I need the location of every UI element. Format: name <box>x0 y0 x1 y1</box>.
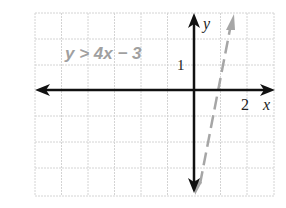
y-tick-label: 1 <box>177 57 185 73</box>
grid <box>35 13 274 196</box>
y-axis-label: y <box>201 15 211 33</box>
coordinate-plane: y x 1 2 y > 4x − 3 <box>0 0 286 208</box>
y-axis <box>188 13 200 193</box>
x-axis <box>35 84 275 96</box>
boundary-arrow-up-icon <box>226 14 235 30</box>
x-tick-label: 2 <box>241 96 249 113</box>
x-axis-label: x <box>262 96 270 113</box>
inequality-label: y > 4x − 3 <box>64 44 142 63</box>
